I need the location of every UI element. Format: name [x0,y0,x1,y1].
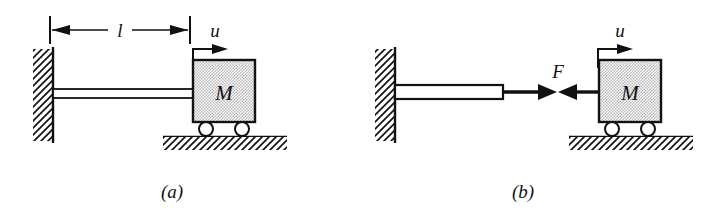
mass-block-a: M [193,60,255,122]
force-arrow-left-b [558,84,599,100]
detached-rod-b [395,85,503,99]
panel-b: u F [375,20,693,203]
ground-a [163,137,287,150]
arrowhead-left [52,25,70,35]
wall-hatch-area-a [33,49,53,141]
length-label-a: l [117,20,122,41]
caption-b: (b) [512,181,534,203]
displacement-label-a: u [210,20,220,41]
dimension-line-l: l [50,16,190,44]
ground-hatch-b [569,137,693,150]
wheels-a [199,122,249,136]
mechanics-figure: l u M [0,0,722,217]
panel-a: l u M [33,16,287,203]
force-right-head-b [538,84,557,100]
mass-label-a: M [214,81,234,105]
rod-body-a [53,89,193,98]
wheel-left-a [199,122,213,136]
caption-a: (a) [161,181,183,203]
wheel-right-b [641,122,655,136]
wheel-right-a [235,122,249,136]
wall-hatch-area-b [375,49,395,141]
ground-hatch-a [163,137,287,150]
wheels-b [605,122,655,136]
mass-label-b: M [620,81,640,105]
force-left-head-b [558,84,577,100]
connecting-rod-a [53,89,193,98]
mass-block-b: M [599,60,661,122]
arrowhead-right [170,25,188,35]
u-arrowhead-b [617,44,633,54]
fixed-wall-a [33,47,53,143]
rod-body-b [395,85,503,99]
force-arrow-right-b [503,84,557,100]
ground-b [569,137,693,150]
wheel-left-b [605,122,619,136]
fixed-wall-b [375,47,395,143]
u-arrowhead-a [212,44,228,54]
displacement-label-b: u [615,20,625,41]
figure-root: l u M [0,0,722,217]
force-label-b: F [551,61,564,82]
